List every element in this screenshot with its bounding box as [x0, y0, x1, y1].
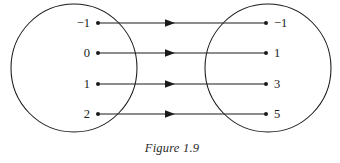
codomain-element-label: 3	[274, 77, 280, 91]
figure-caption: Figure 1.9	[144, 141, 200, 155]
figure-container: −1 −1 0 1 1 3 2	[0, 0, 340, 163]
mapping-row: 1 3	[84, 77, 281, 91]
mapping-arrowhead	[165, 80, 175, 88]
mapping-diagram: −1 −1 0 1 1 3 2	[0, 0, 340, 163]
domain-element-label: 1	[84, 77, 90, 91]
codomain-element-dot	[264, 112, 268, 116]
mapping-arrowhead	[165, 49, 175, 57]
domain-element-label: 0	[84, 46, 90, 60]
mapping-row: 0 1	[84, 46, 281, 60]
mapping-arrowhead	[165, 19, 175, 27]
codomain-element-label: 5	[274, 107, 280, 121]
mapping-arrowhead	[165, 110, 175, 118]
codomain-element-label: 1	[274, 46, 280, 60]
mapping-row: 2 5	[84, 107, 281, 121]
mapping-row: −1 −1	[77, 16, 288, 30]
codomain-element-dot	[264, 82, 268, 86]
domain-element-label: 2	[84, 107, 90, 121]
domain-element-label: −1	[77, 16, 90, 30]
codomain-element-label: −1	[274, 16, 287, 30]
codomain-element-dot	[264, 51, 268, 55]
codomain-element-dot	[264, 21, 268, 25]
